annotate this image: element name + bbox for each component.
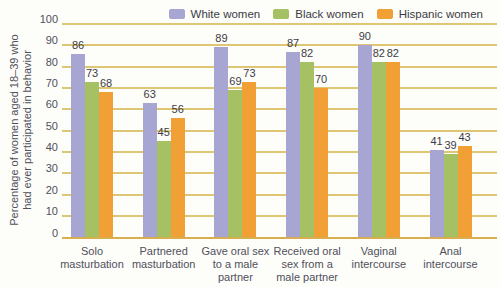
y-axis-title-line-1: Percentage of women aged 18–39 who <box>8 34 21 225</box>
bar-black-women-0 <box>85 82 99 238</box>
legend-item-black-women: Black women <box>273 8 363 20</box>
x-category-label-line: male partner <box>257 271 357 284</box>
bar-hispanic-women-5 <box>458 146 472 238</box>
bar-value-label: 86 <box>63 39 93 52</box>
bar-hispanic-women-2 <box>242 82 256 238</box>
bar-black-women-5 <box>444 154 458 237</box>
bar-chart-figure: White womenBlack womenHispanic women Per… <box>0 0 500 287</box>
bar-white-women-1 <box>143 103 157 238</box>
gridline <box>62 66 497 68</box>
bar-black-women-4 <box>372 62 386 237</box>
legend-item-hispanic-women: Hispanic women <box>377 8 483 20</box>
gridline <box>62 130 497 132</box>
legend-swatch-icon <box>377 9 393 19</box>
bar-value-label: 82 <box>292 47 322 60</box>
bar-value-label: 70 <box>306 73 336 86</box>
bar-value-label: 68 <box>91 77 121 90</box>
legend-item-white-women: White women <box>169 8 261 20</box>
bar-black-women-2 <box>228 90 242 237</box>
bar-value-label: 90 <box>350 30 380 43</box>
bar-black-women-1 <box>157 141 171 237</box>
bar-value-label: 73 <box>234 67 264 80</box>
x-category-label-line: intercourse <box>401 258 500 271</box>
gridline <box>62 87 497 89</box>
bar-value-label: 43 <box>450 131 480 144</box>
bar-value-label: 89 <box>206 32 236 45</box>
bar-white-women-4 <box>358 45 372 237</box>
legend-swatch-icon <box>273 9 289 19</box>
bar-value-label: 82 <box>378 47 408 60</box>
bar-white-women-3 <box>286 52 300 238</box>
legend-label: Black women <box>295 8 363 20</box>
bar-value-label: 45 <box>149 126 179 139</box>
bar-hispanic-women-0 <box>99 92 113 237</box>
gridline <box>62 23 497 25</box>
bar-hispanic-women-4 <box>386 62 400 237</box>
legend-swatch-icon <box>169 9 185 19</box>
bar-value-label: 56 <box>163 103 193 116</box>
bar-black-women-3 <box>300 62 314 237</box>
bar-hispanic-women-3 <box>314 88 328 237</box>
x-category-label: Analintercourse <box>401 245 500 271</box>
x-category-label-line: Anal <box>401 245 500 258</box>
y-axis-title: Percentage of women aged 18–39 who had e… <box>7 0 35 270</box>
legend-label: Hispanic women <box>399 8 483 20</box>
gridline <box>62 108 497 110</box>
bar-white-women-0 <box>71 54 85 238</box>
chart-legend: White womenBlack womenHispanic women <box>169 8 483 20</box>
bar-value-label: 63 <box>135 88 165 101</box>
y-axis-title-line-2: had ever participated in behavior <box>21 50 34 210</box>
legend-label: White women <box>191 8 261 20</box>
bar-white-women-5 <box>430 150 444 238</box>
